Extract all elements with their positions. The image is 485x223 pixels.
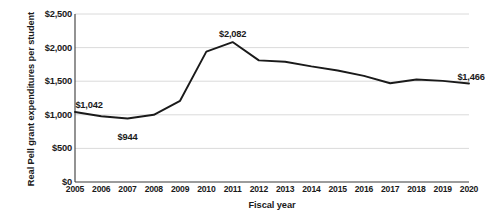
x-tick-label: 2018 [407, 184, 425, 194]
x-axis-tick-labels: 2005200620072008200920102011201220132014… [75, 184, 469, 198]
chart-svg [75, 14, 469, 182]
x-tick-label: 2020 [460, 184, 478, 194]
x-tick-label: 2007 [118, 184, 136, 194]
axis-lines [75, 14, 469, 182]
x-tick-label: 2012 [250, 184, 268, 194]
x-tick-label: 2014 [302, 184, 320, 194]
y-tick-label: $2,000 [45, 43, 72, 53]
plot-area [75, 14, 469, 182]
y-tick-label: $2,500 [45, 9, 72, 19]
y-tick-label: $500 [52, 143, 72, 153]
data-series-line [75, 42, 469, 118]
x-axis-title: Fiscal year [75, 200, 469, 210]
x-tick-label: 2011 [224, 184, 242, 194]
x-tick-label: 2016 [355, 184, 373, 194]
y-tick-label: $1,000 [45, 110, 72, 120]
x-tick-label: 2015 [328, 184, 346, 194]
x-tick-label: 2006 [92, 184, 110, 194]
data-point-label: $1,042 [75, 100, 102, 110]
data-point-label: $944 [118, 132, 138, 142]
x-tick-label: 2005 [66, 184, 84, 194]
x-tick-label: 2008 [145, 184, 163, 194]
x-tick-label: 2009 [171, 184, 189, 194]
data-point-label: $1,466 [457, 72, 484, 82]
x-tick-label: 2019 [434, 184, 452, 194]
x-tick-label: 2017 [381, 184, 399, 194]
data-point-label: $2,082 [219, 29, 246, 39]
x-tick-label: 2013 [276, 184, 294, 194]
x-tick-label: 2010 [197, 184, 215, 194]
y-tick-label: $1,500 [45, 76, 72, 86]
